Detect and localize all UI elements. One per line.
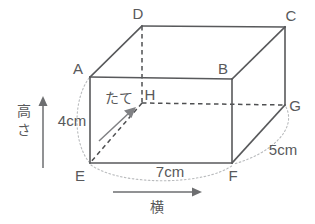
vertex-label-C: C	[286, 7, 297, 24]
edge-B-C	[232, 27, 285, 79]
dimension-label-height: 4cm	[58, 112, 86, 129]
dimension-label-depth: 5cm	[269, 141, 297, 158]
cuboid-diagram-canvas: A B C D E F G H 4cm 7cm 5cm 高 さ 横	[0, 0, 315, 224]
height-axis-label-char-1: 高	[17, 103, 31, 119]
vertex-label-H: H	[145, 86, 156, 103]
height-axis-label-char-2: さ	[17, 122, 31, 138]
width-axis-arrow-head	[192, 188, 202, 197]
cuboid-figure: A B C D E F G H 4cm 7cm 5cm 高 さ 横	[0, 0, 315, 224]
height-axis-arrow-head	[39, 96, 48, 106]
edge-A-B	[90, 77, 232, 79]
vertex-label-A: A	[73, 60, 83, 77]
edge-H-E	[90, 103, 142, 163]
dimension-label-group: 4cm 7cm 5cm	[58, 112, 297, 180]
dimension-label-width: 7cm	[156, 163, 184, 180]
depth-axis-arrow-shaft	[99, 113, 129, 141]
vertex-label-E: E	[75, 167, 85, 184]
depth-axis-group: たて	[99, 90, 136, 141]
vertex-label-G: G	[289, 97, 301, 114]
vertex-label-F: F	[228, 167, 237, 184]
height-axis-group: 高 さ	[17, 96, 48, 168]
edge-D-C	[142, 26, 285, 27]
edge-H-G	[142, 103, 285, 105]
vertex-label-D: D	[133, 5, 144, 22]
edge-A-D	[90, 26, 142, 77]
width-axis-label: 横	[150, 199, 164, 215]
width-axis-group: 横	[113, 188, 202, 216]
depth-axis-label: たて	[105, 90, 133, 106]
vertex-label-B: B	[218, 60, 228, 77]
